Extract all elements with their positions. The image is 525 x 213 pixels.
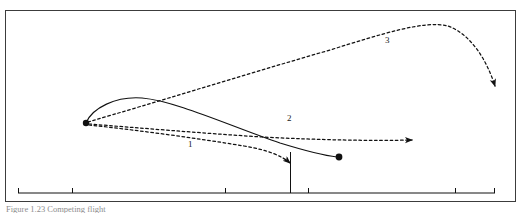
figure-border <box>6 11 516 202</box>
curve-label-3: 3 <box>385 36 390 45</box>
curve-label-2: 2 <box>287 114 292 123</box>
horizontal-axis <box>18 188 495 193</box>
origin-point <box>83 120 89 126</box>
dashed-trajectory-3 <box>88 25 495 122</box>
solid-trajectory <box>86 98 337 157</box>
figure-drawing <box>0 0 525 213</box>
solid-trajectory-endpoint <box>336 154 343 161</box>
figure-container: 1 2 3 Figure 1.23 Competing flight <box>0 0 525 213</box>
figure-caption: Figure 1.23 Competing flight <box>6 205 525 213</box>
curve-label-1: 1 <box>188 140 193 149</box>
